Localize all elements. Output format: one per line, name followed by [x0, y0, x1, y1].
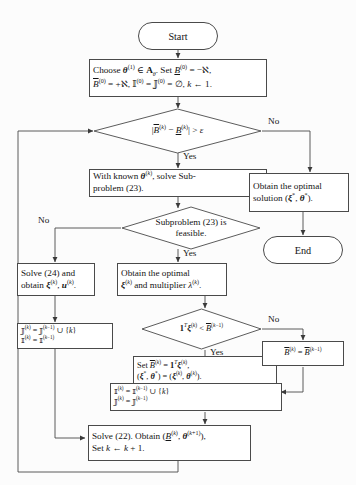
node-obtain-multiplier: Obtain the optimal ξ(k) and multiplier λ… [117, 263, 227, 296]
node-bound-check: 1Tξ(k) < B(k−1) [141, 308, 262, 350]
node-update-i-line2: 𝕁(k) = 𝕁(k−1) [114, 397, 147, 407]
node-initialization-line1: Choose θ(1) ∈ Aθ. Set B(0) = −ℵ, [93, 65, 211, 79]
edge-label-bound-no: No [268, 315, 279, 324]
edge-label-feasible-yes: Yes [183, 249, 196, 258]
node-feasible-check: Subproblem (23) is feasible. [121, 206, 261, 250]
node-bound-check-label: 1Tξ(k) < B(k−1) [141, 308, 262, 350]
flowchart-canvas: Start Choose θ(1) ∈ Aθ. Set B(0) = −ℵ, B… [0, 0, 356, 485]
node-solve-subproblem: With known θ(k), solve Sub- problem (23)… [89, 169, 267, 197]
node-start: Start [138, 22, 218, 50]
node-end: End [263, 236, 343, 264]
node-keep-upper-bound-text: B(k) = B(k−1) [284, 348, 321, 359]
node-optimal-solution-line2: solution (ξ*, θ*). [253, 193, 313, 205]
node-keep-upper-bound: B(k) = B(k−1) [262, 341, 344, 366]
node-set-upper-bound-line2: (ξ*, θ*) = (ξ(k), θ(k)). [137, 372, 202, 383]
node-gap-check: |B(k) − B(k)| > ε [93, 108, 262, 154]
node-solve-24: Solve (24) and obtain ξ(k), u(k). [17, 263, 95, 296]
edge-label-gap-yes: Yes [183, 152, 196, 161]
node-initialization: Choose θ(1) ∈ Aθ. Set B(0) = −ℵ, B(0) = … [89, 59, 267, 97]
node-solve-22: Solve (22). Obtain (B(k), θ(k+1)), Set k… [88, 425, 251, 461]
node-optimal-solution: Obtain the optimal solution (ξ*, θ*). [249, 173, 349, 212]
node-initialization-line2: B(0) = +ℵ, 𝕀(0) = 𝕁(0) = ∅, k ← 1. [93, 79, 212, 91]
edge-label-gap-no: No [268, 117, 279, 126]
node-solve-subproblem-line1: With known θ(k), solve Sub- [93, 171, 196, 183]
node-start-label: Start [168, 31, 187, 42]
node-update-j: 𝕁(k) = 𝕁(k−1) ∪ {k} 𝕀(k) = 𝕀(k−1) [17, 323, 113, 349]
node-obtain-multiplier-line2: ξ(k) and multiplier λ(k). [121, 280, 201, 292]
node-end-label: End [295, 245, 311, 256]
node-update-j-line2: 𝕀(k) = 𝕀(k−1) [21, 336, 54, 346]
edge-label-feasible-no: No [38, 216, 49, 225]
node-optimal-solution-line1: Obtain the optimal [253, 181, 322, 193]
node-solve-24-line2: obtain ξ(k), u(k). [21, 280, 76, 292]
node-solve-subproblem-line2: problem (23). [93, 183, 144, 195]
node-feasible-check-line2: feasible. [176, 228, 207, 240]
node-feasible-check-line1: Subproblem (23) is [156, 217, 227, 229]
node-feasible-check-label: Subproblem (23) is feasible. [121, 206, 261, 250]
node-update-i: 𝕀(k) = 𝕀(k−1) ∪ {k} 𝕁(k) = 𝕁(k−1) [110, 383, 282, 411]
node-solve-22-line1: Solve (22). Obtain (B(k), θ(k+1)), [92, 431, 206, 443]
node-solve-22-line2: Set k ← k + 1. [92, 443, 145, 455]
node-gap-check-label: |B(k) − B(k)| > ε [93, 108, 262, 154]
